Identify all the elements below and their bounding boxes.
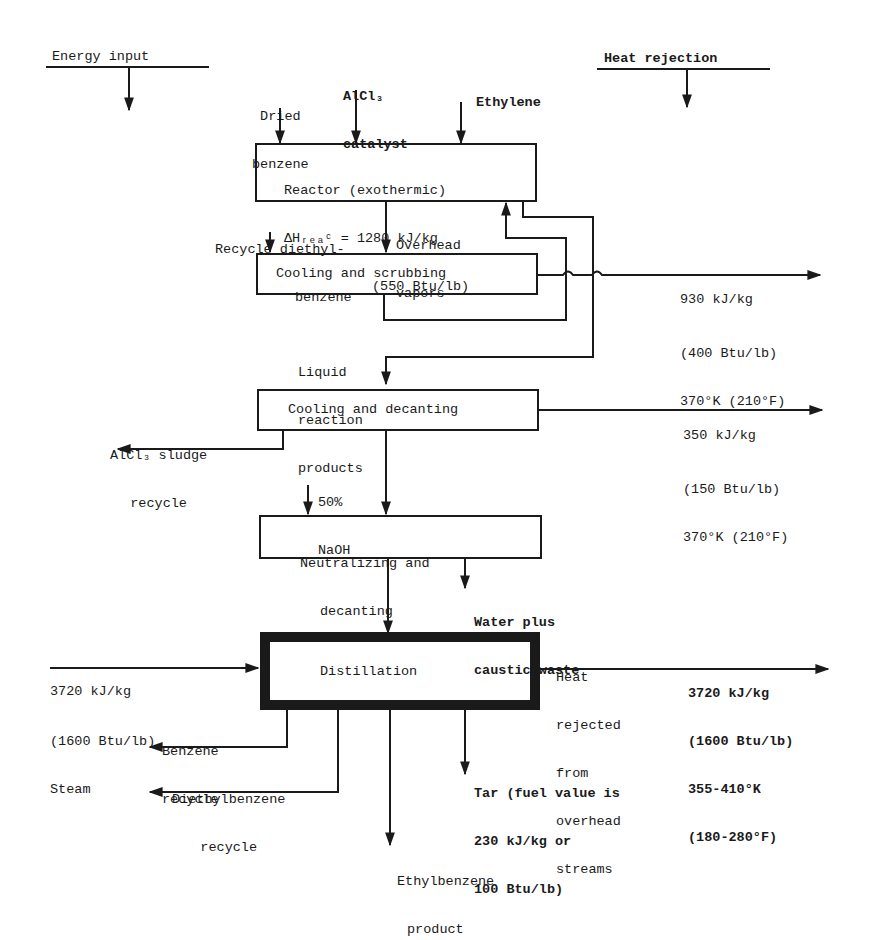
decanting-heat-output: 350 kJ/kg (150 Btu/lb) 370°K (210°F) [683,396,788,562]
ethylbenzene-product-label: Ethylbenzene product [397,842,494,940]
ethylene-label: Ethylene [476,95,541,111]
distillation-label: Distillation [320,664,417,680]
steam-input-label: 3720 kJ/kg (1600 Btu/lb) Steam [50,652,155,814]
tar-label: Tar (fuel value is 230 kJ/kg or 100 Btu/… [474,754,620,914]
distillation-heat-output: 3720 kJ/kg (1600 Btu/lb) 355-410°K (180-… [688,654,793,862]
diethylbenzene-recycle-label: Diethylbenzene recycle [172,760,285,872]
cooling-scrubbing-label: Cooling and scrubbing [276,266,446,282]
cooling-decanting-label: Cooling and decanting [288,402,458,418]
heat-rejection-label: Heat rejection [604,51,717,67]
energy-input-label: Energy input [52,49,149,65]
overhead-vapors-label: Overhead vapors [396,206,461,318]
alcl3-sludge-label: AlCl₃ sludge recycle [110,416,207,528]
neutralizing-label: Neutralizing and decanting [300,524,430,636]
